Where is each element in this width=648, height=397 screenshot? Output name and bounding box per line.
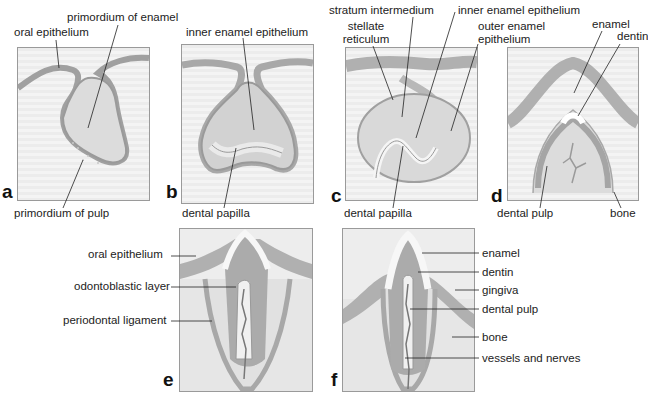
enamel-organ-bud-illustration [18, 48, 149, 200]
label-vessels-and-nerves: vessels and nerves [482, 352, 580, 365]
label-outer-line1: outer enamel [478, 20, 545, 32]
label-bone-d: bone [610, 207, 636, 220]
label-dentin-f: dentin [482, 266, 513, 279]
panel-letter-f: f [331, 370, 337, 389]
label-primordium-of-pulp: primordium of pulp [14, 207, 109, 220]
label-enamel-f: enamel [482, 247, 520, 260]
label-stellate-line2: reticulum [343, 33, 390, 45]
enamel-organ-bell-illustration [346, 48, 477, 200]
panel-d [507, 47, 639, 201]
tooth-crown-formation-illustration [508, 48, 638, 200]
label-dentin-d: dentin [617, 30, 648, 43]
label-primordium-of-enamel: primordium of enamel [67, 11, 178, 24]
label-dental-pulp-d: dental pulp [497, 207, 553, 220]
label-bone-f: bone [482, 331, 508, 344]
tooth-eruption-illustration [180, 229, 312, 391]
label-periodontal-ligament: periodontal ligament [63, 314, 167, 327]
enamel-organ-cap-illustration [182, 45, 313, 203]
panel-letter-b: b [166, 182, 178, 201]
label-dental-papilla-c: dental papilla [344, 207, 412, 220]
label-inner-enamel-epithelium-c: inner enamel epithelium [458, 4, 580, 17]
label-inner-enamel-epithelium-b: inner enamel epithelium [186, 26, 308, 39]
label-dental-papilla-b: dental papilla [182, 207, 250, 220]
label-oral-epithelium-a: oral epithelium [14, 26, 89, 39]
label-odontoblastic-layer: odontoblastic layer [74, 280, 170, 293]
label-stellate-reticulum: stellate reticulum [336, 20, 396, 46]
label-dental-pulp-f: dental pulp [482, 303, 538, 316]
label-gingiva-f: gingiva [482, 284, 518, 297]
erupted-tooth-illustration [343, 229, 474, 391]
panel-b [181, 44, 314, 204]
panel-f [342, 228, 475, 392]
label-stellate-line1: stellate [348, 20, 384, 32]
label-stratum-intermedium: stratum intermedium [329, 4, 434, 17]
label-outer-enamel-epithelium: outer enamel epithelium [478, 20, 545, 46]
panel-letter-a: a [2, 182, 13, 201]
label-outer-line2: epithelium [478, 33, 530, 45]
panel-a [17, 47, 150, 201]
panel-e [179, 228, 313, 392]
panel-letter-e: e [163, 370, 174, 389]
panel-letter-c: c [331, 186, 342, 205]
panel-c [345, 47, 478, 201]
label-oral-epithelium-e: oral epithelium [88, 248, 163, 261]
panel-letter-d: d [491, 186, 503, 205]
